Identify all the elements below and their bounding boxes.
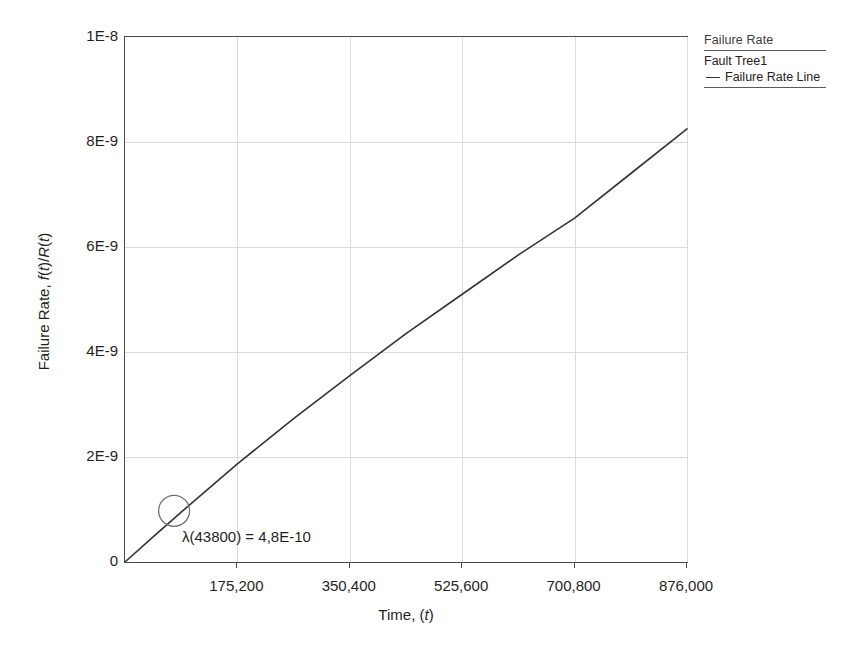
failure-rate-line-series: [125, 37, 687, 562]
y-axis-tick-label: 8E-9: [52, 133, 118, 148]
gridline-vertical: [687, 37, 688, 562]
x-axis-tick-label: 350,400: [289, 578, 409, 593]
legend-group-label: Fault Tree1: [704, 53, 844, 69]
x-axis-tick-mark: [574, 563, 575, 568]
legend: Failure Rate Fault Tree1 Failure Rate Li…: [704, 32, 844, 90]
x-axis-tick-mark: [461, 563, 462, 568]
x-axis-tick-label: 700,800: [514, 578, 634, 593]
y-axis-title-var-r: R: [35, 247, 52, 258]
legend-entry-label: Failure Rate Line: [725, 69, 820, 85]
y-axis-title: Failure Rate, f(t)/R(t): [35, 152, 52, 452]
legend-line-swatch-icon: [706, 77, 720, 78]
legend-entry: Failure Rate Line: [704, 69, 844, 85]
y-axis-tick-labels: 02E-94E-96E-98E-91E-8: [44, 0, 118, 647]
y-axis-tick-label: 2E-9: [52, 448, 118, 463]
y-axis-title-var-f: f: [35, 276, 52, 280]
y-axis-title-paren-open: (: [35, 271, 52, 276]
legend-title: Failure Rate: [704, 32, 844, 48]
y-axis-tick-label: 6E-9: [52, 238, 118, 253]
x-axis-title: Time, (t): [124, 606, 688, 623]
y-axis-title-close-slash: )/: [35, 258, 52, 267]
lambda-annotation-label: λ(43800) = 4,8E-10: [182, 528, 311, 545]
y-axis-title-paren-close2: ): [35, 233, 52, 238]
legend-divider-bottom: [704, 87, 826, 88]
y-axis-tick-label: 1E-8: [52, 28, 118, 43]
x-axis-tick-mark: [686, 563, 687, 568]
legend-divider-top: [704, 50, 826, 51]
x-axis-title-prefix: Time, (: [378, 606, 424, 623]
series-polyline: [125, 129, 687, 562]
y-axis-title-var-t1: t: [35, 267, 52, 271]
y-axis-title-var-t2: t: [35, 238, 52, 242]
failure-rate-chart-figure: 02E-94E-96E-98E-91E-8 175,200350,400525,…: [0, 0, 853, 647]
x-axis-tick-mark: [236, 563, 237, 568]
legend-entries: Failure Rate Line: [704, 69, 844, 85]
y-axis-title-prefix: Failure Rate,: [35, 280, 52, 370]
y-axis-tick-label: 4E-9: [52, 343, 118, 358]
plot-area: [124, 36, 688, 563]
x-axis-tick-mark: [349, 563, 350, 568]
y-axis-title-paren-open2: (: [35, 242, 52, 247]
x-axis-title-suffix: ): [429, 606, 434, 623]
x-axis-tick-label: 876,000: [626, 578, 746, 593]
x-axis-tick-label: 525,600: [401, 578, 521, 593]
x-axis-tick-label: 175,200: [176, 578, 296, 593]
annotation-circle-marker: [159, 495, 190, 526]
y-axis-tick-label: 0: [52, 553, 118, 568]
